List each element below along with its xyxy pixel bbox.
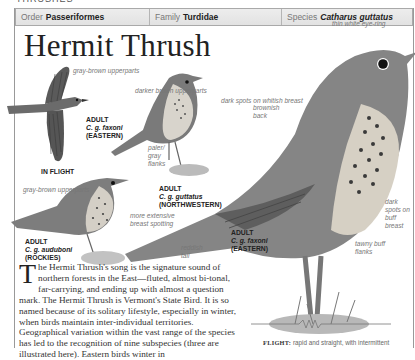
- label-brownish-back: brownish back: [253, 104, 281, 120]
- species-label: Species: [287, 12, 317, 22]
- drop-cap: T: [19, 263, 36, 285]
- caption-age: ADULT: [25, 238, 48, 245]
- family-value: Turdidae: [183, 12, 218, 22]
- caption-age: ADULT: [86, 116, 109, 123]
- taxonomy-family: Family Turdidae: [150, 9, 282, 25]
- caption-subspecies: C. g. auduboni: [25, 246, 72, 253]
- section-title: THRUSHES: [16, 0, 74, 4]
- field-guide-page: Order Passeriformes Family Turdidae Spec…: [14, 8, 414, 348]
- flight-text: rapid and straight, with intermittent: [293, 339, 389, 346]
- flight-label: FLIGHT:: [263, 339, 291, 346]
- label-reddish-tail: reddish tail: [181, 244, 205, 260]
- label-tawny-buff-flanks: tawny buff flanks: [355, 240, 391, 256]
- order-label: Order: [21, 12, 43, 22]
- flight-pattern-icon: [251, 318, 391, 330]
- caption-subspecies: C. g. faxoni: [231, 237, 268, 244]
- in-flight-label: IN FLIGHT: [41, 168, 74, 175]
- label-thin-white-eye-ring: thin white eye-ring: [332, 20, 386, 28]
- flight-bird-illustration: [5, 64, 105, 164]
- species-description: The Hermit Thrush's song is the signatur…: [19, 262, 237, 360]
- caption-eastern-bird: ADULT C. g. faxoni (EASTERN): [231, 229, 268, 254]
- label-dark-spots-buff-breast: dark spots on buff breast: [385, 198, 413, 230]
- taxonomy-order: Order Passeriformes: [16, 9, 150, 25]
- description-text: he Hermit Thrush's song is the signature…: [19, 262, 236, 359]
- caption-in-flight: IN FLIGHT: [41, 168, 74, 176]
- caption-age: ADULT: [231, 229, 254, 236]
- flight-description: FLIGHT: rapid and straight, with intermi…: [263, 339, 389, 346]
- label-rockies-gray-brown-upperparts: gray-brown upperparts: [23, 186, 89, 194]
- caption-region: (EASTERN): [231, 245, 268, 252]
- order-value: Passeriformes: [46, 12, 105, 22]
- family-label: Family: [155, 12, 180, 22]
